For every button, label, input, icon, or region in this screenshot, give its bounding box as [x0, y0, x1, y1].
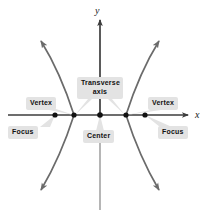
center-point — [97, 112, 103, 118]
focus-right-label: Focus — [162, 128, 184, 135]
hyperbola-figure: y x Transverse axis Center Vertex Vertex… — [0, 0, 215, 220]
vertex-left-callout: Vertex — [26, 97, 56, 110]
focus-left-callout: Focus — [8, 126, 38, 139]
focus-right-point — [142, 112, 147, 117]
transverse-axis-label-line1: Transverse — [81, 79, 120, 86]
focus-right-callout: Focus — [158, 126, 188, 139]
transverse-axis-label-line2: axis — [93, 88, 107, 95]
vertex-right-callout: Vertex — [148, 97, 178, 110]
x-axis-label: x — [195, 110, 199, 120]
center-callout: Center — [83, 130, 114, 143]
y-axis-label: y — [95, 6, 99, 16]
focus-left-pointer — [40, 115, 55, 127]
transverse-axis-callout: Transverse axis — [77, 77, 123, 99]
vertex-left-point — [71, 112, 76, 117]
vertex-right-point — [123, 112, 128, 117]
hyperbola-canvas — [0, 0, 215, 220]
vertex-left-label: Vertex — [30, 99, 52, 106]
center-label: Center — [87, 132, 110, 139]
vertex-left-pointer — [44, 109, 74, 115]
focus-left-label: Focus — [12, 128, 34, 135]
vertex-right-label: Vertex — [152, 99, 174, 106]
transverse-axis-pointer-right — [108, 99, 125, 115]
transverse-axis-pointer-left — [75, 99, 92, 115]
hyperbola-right-branch-lower — [126, 115, 159, 190]
focus-left-point — [52, 112, 57, 117]
